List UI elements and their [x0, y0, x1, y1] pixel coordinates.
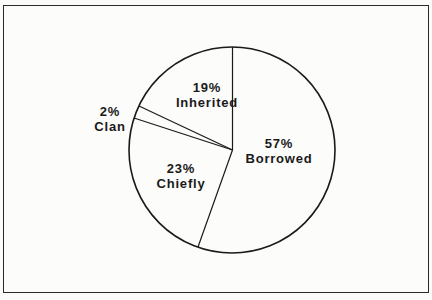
slice-label-inherited: 19% Inherited	[176, 80, 238, 110]
borrowed-name: Borrowed	[245, 151, 312, 166]
chiefly-percent: 23%	[157, 161, 206, 176]
inherited-percent: 19%	[176, 80, 238, 95]
divider-chiefly-clan	[134, 118, 233, 150]
pie-chart	[0, 0, 432, 300]
clan-percent: 2%	[94, 104, 125, 119]
chiefly-name: Chiefly	[157, 176, 206, 191]
slice-label-clan: 2% Clan	[94, 104, 125, 134]
slice-label-chiefly: 23% Chiefly	[157, 161, 206, 191]
divider-clan-inherited	[139, 106, 233, 150]
clan-name: Clan	[94, 119, 125, 134]
slice-label-borrowed: 57% Borrowed	[245, 136, 312, 166]
inherited-name: Inherited	[176, 95, 238, 110]
borrowed-percent: 57%	[245, 136, 312, 151]
